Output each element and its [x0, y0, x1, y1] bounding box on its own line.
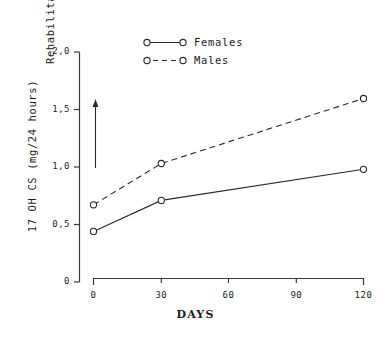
x-tick-label-120: 120 — [344, 290, 384, 300]
legend-label-females: Females — [194, 36, 243, 48]
x-axis-ticks — [94, 279, 364, 286]
legend-label-males: Males — [194, 54, 229, 66]
legend-sample-males — [144, 57, 186, 63]
legend-sample-females — [144, 39, 186, 45]
x-tick-label-0: 0 — [74, 290, 114, 300]
y-axis-ticks — [74, 52, 80, 282]
y-tick-label-0: 0 — [34, 276, 70, 286]
x-tick-label-30: 30 — [141, 290, 181, 300]
rehabilitation-annotation-label: Rehabilitation — [44, 0, 56, 64]
y-tick-label-1-5: 1,5 — [34, 104, 70, 114]
y-tick-label-1: 1,0 — [34, 161, 70, 171]
chart-figure: 2,0 1,5 1,0 0,5 0 0 30 60 90 120 17 OH C… — [0, 0, 391, 338]
x-tick-label-90: 90 — [276, 290, 316, 300]
rehabilitation-arrow — [93, 99, 99, 168]
series-males — [90, 95, 366, 207]
y-tick-label-0-5: 0,5 — [34, 219, 70, 229]
x-tick-label-60: 60 — [209, 290, 249, 300]
y-axis-title: 17 OH CS (mg/24 hours) — [26, 61, 38, 251]
series-females — [90, 166, 366, 234]
x-axis-title: DAYS — [0, 308, 391, 321]
